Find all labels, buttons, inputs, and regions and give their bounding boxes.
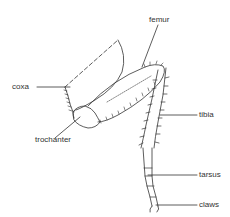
leg-illustration — [0, 0, 230, 217]
label-coxa: coxa — [12, 83, 29, 91]
femur-dotted-line — [107, 76, 151, 102]
label-trochanter: trochanter — [35, 136, 71, 144]
label-tarsus: tarsus — [199, 171, 221, 179]
label-claws: claws — [199, 201, 219, 209]
coxa-dashed-edge — [65, 40, 118, 87]
claws-shape — [150, 206, 159, 212]
coxa-outline — [76, 40, 124, 110]
label-femur: femur — [149, 16, 169, 24]
insect-leg-diagram: coxa femur trochanter tibia tarsus claws — [0, 0, 230, 217]
label-tibia: tibia — [199, 111, 214, 119]
femur-leader — [142, 25, 158, 67]
